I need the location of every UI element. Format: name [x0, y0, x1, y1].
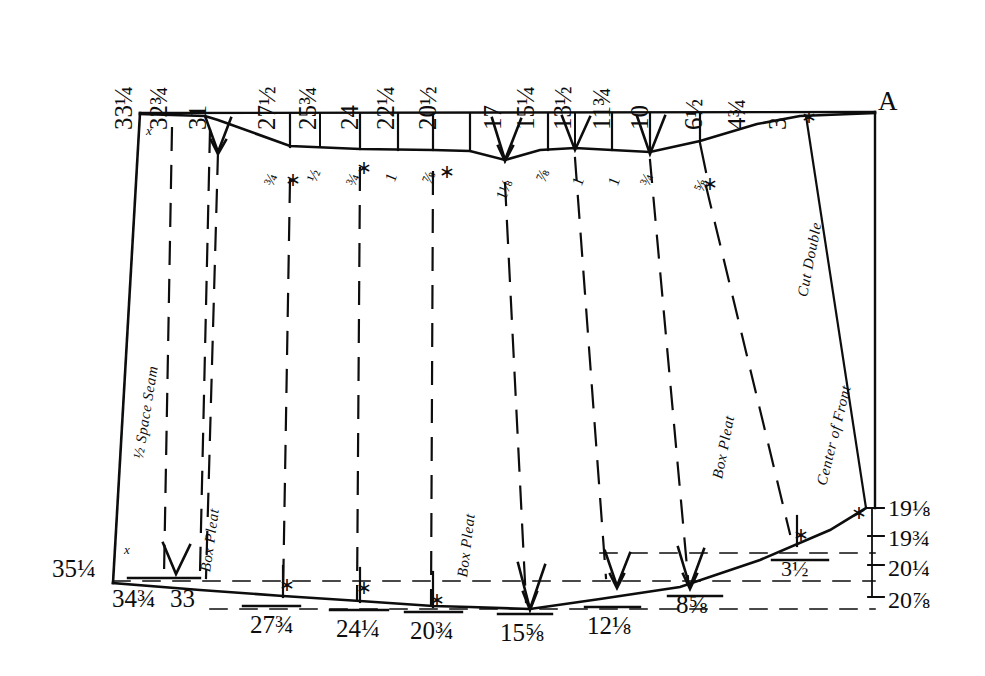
asterisk-mark: ∗	[279, 575, 295, 594]
asterisk-mark: ∗	[356, 158, 372, 177]
asterisk-mark: ∗	[793, 525, 809, 544]
bottom-measure-15-5-8: 15⅝	[500, 620, 544, 645]
top-measure-13-1-2: 13½	[550, 86, 575, 130]
top-measure-25-3-4: 25¾	[295, 86, 320, 130]
asterisk-mark: ∗	[429, 590, 445, 609]
asterisk-mark: ∗	[285, 170, 301, 189]
asterisk-mark: ∗	[851, 503, 867, 522]
top-measure-15-1-4: 15¼	[513, 86, 538, 130]
bottom-measure-12-1-8: 12⅛	[587, 613, 631, 638]
corner-label-a: A	[878, 88, 898, 115]
bottom-measure-20-3-4: 20¾	[410, 618, 454, 643]
top-edge-line	[140, 112, 875, 113]
top-measure-11-3-4: 11¾	[589, 87, 614, 130]
asterisk-mark: ∗	[439, 162, 455, 181]
top-measure-17: 17	[480, 105, 505, 130]
top-measure-27-1-2: 27½	[254, 86, 279, 130]
left-side-seam	[113, 113, 140, 583]
top-measure-33-1-4: 33¼	[111, 86, 136, 130]
top-measure-3: 3	[765, 118, 790, 131]
right-measure-20-1-4: 20¼	[888, 556, 930, 580]
bottom-measure-34-3-4: 34¾	[112, 586, 156, 611]
asterisk-mark: ∗	[702, 174, 718, 193]
bottom-hem-outline	[113, 508, 866, 609]
asterisk-mark: ∗	[356, 578, 372, 597]
right-measure-19-3-4: 19¾	[888, 526, 930, 550]
asterisk-mark: ∗	[801, 107, 817, 126]
top-measure-4-3-4: 4¾	[724, 99, 749, 130]
x-mark: x	[146, 124, 152, 137]
bottom-measure-35-1-4: 35¼	[52, 556, 96, 581]
right-measure-19-1-8: 19⅛	[888, 496, 930, 520]
bottom-measure-8-5-8: 8⅝	[676, 592, 707, 617]
short-slant-dashes	[700, 143, 706, 172]
top-measure-10: 10	[627, 105, 652, 130]
bottom-measure-27-3-4: 27¾	[250, 612, 294, 637]
pleat-construction-lines	[164, 128, 790, 605]
right-measure-20-7-8: 20⅞	[888, 588, 930, 612]
top-measure-6-1-2: 6½	[681, 99, 706, 130]
hem-numeral-underlines	[128, 560, 828, 614]
bottom-measure-33: 33	[170, 586, 195, 611]
top-measure-24: 24	[337, 105, 362, 130]
pattern-draft-sheet: A 33¼ 32¾ 31 27½ 25¾ 24 22¼ 20½ 17 15¼ 1…	[0, 0, 985, 676]
top-measure-20-1-2: 20½	[415, 86, 440, 130]
bottom-measure-3-1-2: 3½	[781, 558, 809, 580]
top-measure-31: 31	[185, 105, 210, 130]
bottom-measure-24-1-4: 24¼	[336, 616, 380, 641]
x-mark: x	[124, 543, 130, 556]
top-measure-22-1-4: 22¼	[373, 86, 398, 130]
